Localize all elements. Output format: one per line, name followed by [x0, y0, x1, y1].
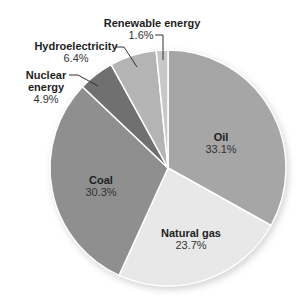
slice-value-renewable: 1.6%	[128, 29, 153, 41]
slice-label-hydro: Hydroelectricity	[34, 40, 118, 52]
pie-slices	[50, 50, 286, 286]
slice-value-coal: 30.3%	[85, 186, 116, 198]
slice-label-natural-gas: Natural gas	[161, 227, 221, 239]
slice-value-nuclear: 4.9%	[33, 93, 58, 105]
slice-value-oil: 33.1%	[205, 143, 236, 155]
slice-label-nuclear-line1: Nuclear	[26, 69, 67, 81]
slice-label-nuclear-line2: energy	[28, 81, 65, 93]
pie-chart: Oil 33.1% Natural gas 23.7% Coal 30.3% N…	[0, 0, 305, 304]
slice-value-hydro: 6.4%	[63, 52, 88, 64]
slice-label-renewable: Renewable energy	[104, 17, 201, 29]
slice-label-coal: Coal	[89, 174, 113, 186]
slice-value-natural-gas: 23.7%	[175, 239, 206, 251]
slice-label-oil: Oil	[214, 131, 229, 143]
